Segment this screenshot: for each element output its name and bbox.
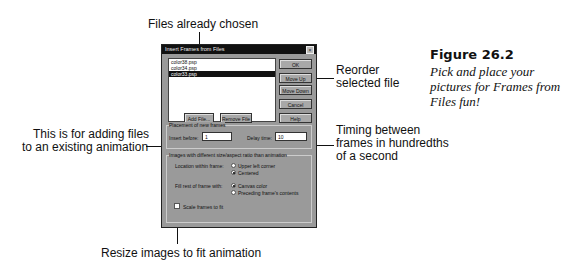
annotation-reorder-2: selected file (336, 77, 399, 90)
fill-canvas-label: Canvas color (238, 183, 267, 189)
location-centered-radio[interactable] (231, 170, 236, 175)
images-group: Images with different size/aspect ratio … (166, 155, 312, 223)
images-group-label: Images with different size/aspect ratio … (169, 152, 287, 158)
cancel-button[interactable]: Cancel (279, 99, 312, 109)
help-button[interactable]: Help (279, 113, 312, 123)
file-list-item-selected[interactable]: color33.psp (169, 71, 275, 77)
dialog-title: Insert Frames from Files (165, 46, 225, 52)
move-up-button[interactable]: Move Up (279, 73, 312, 83)
annotation-adding-files-2: to an existing animation (22, 141, 148, 154)
delay-time-label: Delay time: (247, 135, 272, 141)
insert-before-spinner[interactable]: 1 (202, 132, 232, 141)
fill-preceding-radio[interactable] (231, 190, 236, 195)
placement-group: Placement of new frames Insert before: 1… (166, 125, 312, 149)
location-upper-left-radio[interactable] (231, 163, 236, 168)
annotation-files-chosen: Files already chosen (148, 18, 258, 31)
fill-preceding-label: Preceding frame's contents (238, 190, 298, 196)
figure-caption: Pick and place your pictures for Frames … (430, 64, 570, 109)
location-centered-label: Centered (238, 170, 259, 176)
insert-frames-dialog: Insert Frames from Files × color38.psp c… (161, 44, 317, 228)
close-icon[interactable]: × (306, 46, 314, 54)
scale-frames-label: Scale frames to fit (183, 204, 223, 210)
insert-before-label: Insert before: (169, 135, 198, 141)
scale-frames-checkbox[interactable] (174, 203, 180, 209)
location-upper-left-label: Upper left corner (238, 163, 275, 169)
fill-canvas-radio[interactable] (231, 183, 236, 188)
annotation-timing-3: of a second (336, 150, 398, 163)
ok-button[interactable]: OK (279, 59, 312, 69)
dialog-titlebar[interactable]: Insert Frames from Files × (162, 45, 316, 54)
figure-title: Figure 26.2 (430, 47, 514, 62)
placement-group-label: Placement of new frames (169, 122, 225, 128)
move-down-button[interactable]: Move Down (279, 85, 312, 95)
annotation-resize: Resize images to fit animation (101, 247, 261, 260)
delay-time-spinner[interactable]: 10 (275, 132, 307, 141)
fill-label: Fill rest of frame with: (175, 183, 223, 189)
location-label: Location within frame: (175, 163, 224, 169)
